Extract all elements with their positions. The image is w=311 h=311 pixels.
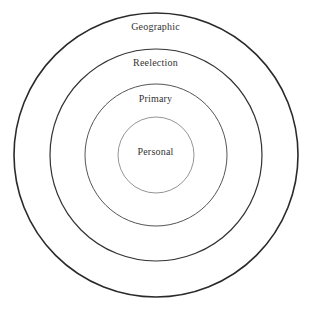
ring-label-primary: Primary	[0, 93, 311, 104]
ring-label-reelection: Reelection	[0, 57, 311, 68]
ring-label-personal: Personal	[0, 146, 311, 157]
concentric-rings-diagram: Geographic Reelection Primary Personal	[0, 0, 311, 311]
ring-label-geographic: Geographic	[0, 21, 311, 32]
